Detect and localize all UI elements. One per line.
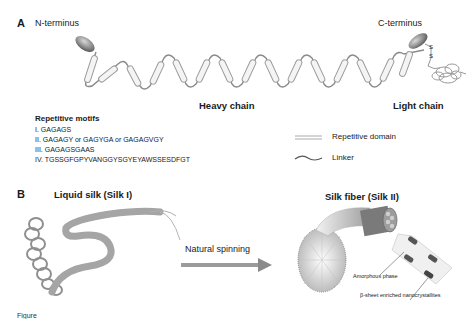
repetitive-motifs: Repetitive motifs I. GAGAGS II. GAGAGY o…	[35, 114, 190, 165]
repetitive-domains	[84, 51, 413, 87]
motif-4: IV. TGSSGFGPYVANGGYSGYEYAWSSESDFGT	[35, 155, 190, 165]
c-terminus-label: C-terminus	[378, 18, 422, 28]
motif-1: I. GAGAGS	[35, 125, 190, 135]
c-terminus-domain	[406, 30, 430, 52]
n-terminus-domain	[73, 33, 98, 55]
liquid-silk-label: Liquid silk (Silk I)	[54, 189, 132, 200]
legend-repetitive-domain: Repetitive domain	[332, 132, 396, 141]
natural-spinning-label: Natural spinning	[185, 244, 250, 254]
disulfide-s2: S	[429, 53, 433, 59]
nanocrystallite-block	[392, 234, 452, 284]
legend-wave-line-icon	[295, 156, 322, 160]
legend-linker: Linker	[332, 153, 354, 162]
panel-b-label: B	[17, 188, 25, 200]
fiber-bundle	[360, 206, 397, 236]
silk-fiber-label: Silk fiber (Silk II)	[325, 191, 399, 202]
cocoon-sphere	[298, 228, 346, 292]
spinning-arrow	[181, 258, 272, 272]
liquid-silk-band	[52, 211, 160, 292]
legend-double-line-icon	[295, 136, 322, 139]
beta-sheet-label: β-sheet enriched nanocrystallites	[360, 292, 441, 298]
motif-2: II. GAGAGY or GAGYGA or GAGAGVGY	[35, 135, 190, 145]
light-chain	[428, 64, 466, 83]
amorphous-phase-label: Amorphous phase	[353, 273, 398, 279]
n-terminus-label: N-terminus	[35, 18, 79, 28]
motifs-title: Repetitive motifs	[35, 114, 190, 123]
heavy-chain-label: Heavy chain	[199, 100, 254, 111]
light-chain-label: Light chain	[393, 100, 444, 111]
figure-caption: Figure	[17, 312, 37, 319]
panel-a-label: A	[17, 17, 25, 29]
motif-3: III. GAGAGSGAAS	[35, 145, 190, 155]
disulfide-s1: S	[429, 44, 433, 50]
